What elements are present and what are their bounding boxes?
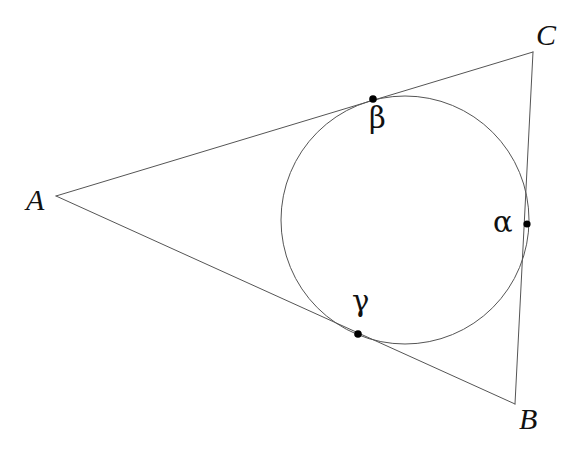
tangent-point-alpha-dot (523, 220, 530, 227)
vertex-label-c: C (536, 20, 556, 50)
tangent-label-gamma: γ (352, 287, 369, 316)
geometry-figure: A B C α β γ (0, 0, 571, 454)
tangent-point-gamma-dot (354, 330, 362, 338)
geometry-canvas (0, 0, 571, 454)
tangent-label-alpha: α (493, 208, 513, 237)
vertex-label-b: B (519, 404, 537, 434)
vertex-label-a: A (26, 185, 44, 215)
tangent-label-beta: β (369, 104, 386, 133)
figure-background (0, 0, 571, 454)
